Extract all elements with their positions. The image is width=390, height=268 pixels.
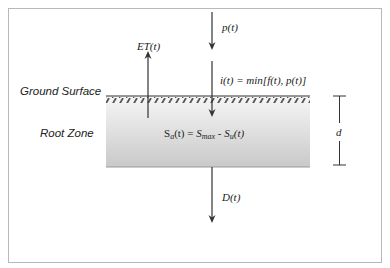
root-zone-label: Root Zone (40, 127, 94, 139)
ground-surface-hatch (106, 97, 310, 103)
evapotranspiration-label: ET(t) (136, 40, 161, 53)
drainage-label: D(t) (221, 191, 241, 204)
infiltration-label: i(t) = min[f(t), p(t)] (220, 74, 306, 87)
depth-label: d (336, 126, 342, 138)
drainage-arrow-icon (209, 167, 216, 223)
precipitation-arrow-icon (209, 12, 216, 50)
diagram-canvas: Ground Surface Root Zone p(t) ET(t) i(t)… (0, 0, 390, 268)
precipitation-label: p(t) (221, 21, 238, 34)
ground-surface-label: Ground Surface (20, 85, 101, 97)
